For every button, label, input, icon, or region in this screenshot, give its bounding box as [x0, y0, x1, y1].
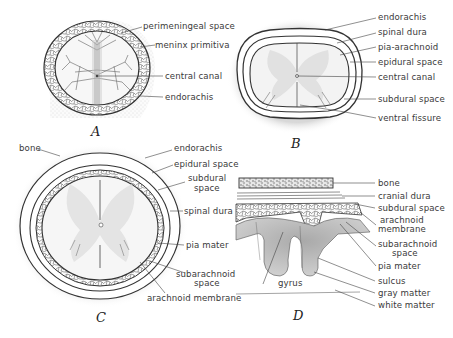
panel-letter-c: C	[96, 310, 106, 325]
label-spinal-dura: spinal dura	[184, 207, 233, 216]
label-subarachnoid-space-line2: space	[194, 279, 220, 288]
panel-a-drawing	[44, 20, 155, 118]
panel-c-drawing	[12, 144, 188, 308]
label-epidural-space: epidural space	[378, 58, 443, 67]
label-arachnoid-membrane: arachnoid membrane	[147, 294, 241, 303]
panel-letter-d: D	[293, 308, 303, 323]
label-subdural: subdural	[188, 174, 226, 183]
label-ventral-fissure: ventral fissure	[378, 114, 441, 123]
label-subdural-space-line2: space	[194, 184, 220, 193]
label-bone: bone	[378, 179, 400, 188]
label-pia-mater: pia mater	[186, 241, 229, 250]
label-epidural-space: epidural space	[174, 160, 239, 169]
label-perimeningeal-space: perimeningeal space	[143, 22, 235, 31]
label-meninx-primitiva: meninx primitiva	[155, 41, 230, 50]
panel-b-drawing	[227, 18, 367, 134]
label-white-matter: white matter	[378, 301, 435, 310]
label-arachnoid-membrane-line2: membrane	[378, 225, 426, 234]
label-subdural-space: subdural space	[378, 95, 445, 104]
label-endorachis: endorachis	[378, 13, 426, 22]
label-sulcus: sulcus	[378, 277, 406, 286]
label-bone: bone	[19, 144, 41, 153]
label-subarachnoid-space-line2: space	[392, 249, 418, 258]
label-endorachis: endorachis	[165, 93, 213, 102]
panel-letter-a: A	[91, 124, 100, 139]
panel-letter-b: B	[291, 136, 301, 151]
label-pia-mater: pia mater	[378, 262, 421, 271]
label-gray-matter: gray matter	[378, 289, 430, 298]
label-spinal-dura: spinal dura	[378, 28, 427, 37]
label-central-canal: central canal	[378, 73, 435, 82]
label-subdural-space: subdural space	[378, 204, 445, 213]
label-endorachis: endorachis	[174, 144, 222, 153]
label-cranial-dura: cranial dura	[378, 192, 431, 201]
label-pia-arachnoid: pia-arachnoid	[378, 43, 438, 52]
label-gyrus: gyrus	[278, 279, 303, 288]
label-central-canal: central canal	[165, 72, 222, 81]
